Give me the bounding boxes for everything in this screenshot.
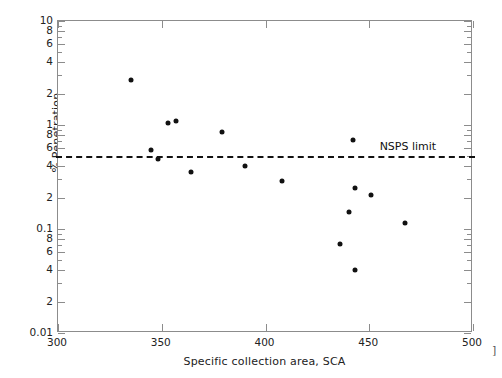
- y-tick-mark-right: [464, 270, 471, 271]
- x-tick-mark-top: [369, 21, 370, 28]
- y-tick-mark-right: [464, 44, 471, 45]
- nsps-limit-label: NSPS limit: [380, 140, 437, 153]
- y-tick-label: 4: [46, 263, 53, 275]
- y-tick-mark: [58, 148, 65, 149]
- data-point: [155, 157, 160, 162]
- data-point: [188, 170, 193, 175]
- x-tick-mark-bottom: [473, 324, 474, 331]
- y-tick-mark: [58, 125, 65, 126]
- data-point: [128, 78, 133, 83]
- y-tick-mark: [58, 234, 62, 235]
- x-tick-mark-bottom: [266, 324, 267, 331]
- y-tick-mark: [58, 21, 65, 22]
- x-tick-mark-top: [473, 21, 474, 28]
- y-tick-label: 6: [46, 141, 53, 153]
- data-point: [350, 137, 355, 142]
- data-point: [174, 118, 179, 123]
- y-tick-mark: [58, 198, 65, 199]
- y-tick-mark-right: [464, 62, 471, 63]
- y-tick-mark-right: [467, 245, 471, 246]
- y-tick-mark-right: [467, 141, 471, 142]
- y-tick-mark: [58, 333, 65, 334]
- x-tick-mark-bottom: [162, 324, 163, 331]
- chart-figure: % Penetration 108642186420.186420.01 NSP…: [0, 0, 502, 378]
- y-tick-label: 8: [46, 232, 53, 244]
- y-tick-mark: [58, 166, 65, 167]
- x-tick-mark-bottom: [369, 324, 370, 331]
- y-tick-mark-right: [467, 179, 471, 180]
- x-axis-label: Specific collection area, SCA: [57, 355, 472, 368]
- y-tick-mark-right: [464, 239, 471, 240]
- y-tick-mark: [58, 31, 65, 32]
- y-tick-mark-right: [467, 52, 471, 53]
- y-tick-mark-right: [464, 21, 471, 22]
- y-tick-label: 2: [46, 191, 53, 203]
- data-point: [402, 220, 407, 225]
- y-tick-mark: [58, 44, 65, 45]
- y-tick-mark: [58, 37, 62, 38]
- y-tick-mark-right: [464, 148, 471, 149]
- data-point: [280, 178, 285, 183]
- y-tick-label: 6: [46, 245, 53, 257]
- y-tick-mark: [58, 179, 62, 180]
- data-point: [369, 193, 374, 198]
- y-tick-label: 8: [46, 128, 53, 140]
- y-tick-mark-right: [467, 260, 471, 261]
- data-point: [219, 130, 224, 135]
- y-tick-mark-right: [464, 229, 471, 230]
- y-tick-label: 4: [46, 159, 53, 171]
- x-tick-mark-top: [58, 21, 59, 28]
- nsps-limit-line: [56, 156, 475, 158]
- data-point: [346, 210, 351, 215]
- y-tick-mark-right: [464, 94, 471, 95]
- data-point: [352, 268, 357, 273]
- y-tick-mark-right: [467, 234, 471, 235]
- y-tick-mark-right: [464, 166, 471, 167]
- data-point: [149, 147, 154, 152]
- y-tick-mark: [58, 229, 65, 230]
- x-tick-mark-top: [162, 21, 163, 28]
- x-tick-label: 300: [47, 336, 67, 348]
- y-axis-tick-labels: 108642186420.186420.01: [0, 0, 53, 378]
- y-tick-label: 4: [46, 55, 53, 67]
- y-tick-label: 2: [46, 295, 53, 307]
- page-corner-mark: ]: [492, 344, 496, 357]
- data-point: [165, 120, 170, 125]
- y-tick-mark-right: [467, 26, 471, 27]
- y-tick-mark: [58, 252, 65, 253]
- y-tick-mark: [58, 75, 62, 76]
- x-tick-label: 400: [254, 336, 274, 348]
- y-tick-mark-right: [464, 252, 471, 253]
- data-point: [338, 241, 343, 246]
- y-tick-mark-right: [464, 31, 471, 32]
- y-tick-label: 2: [46, 87, 53, 99]
- y-tick-mark: [58, 270, 65, 271]
- x-tick-label: 350: [151, 336, 171, 348]
- plot-area: NSPS limit: [57, 20, 472, 332]
- y-tick-mark: [58, 52, 62, 53]
- y-tick-mark: [58, 94, 65, 95]
- y-tick-mark-right: [467, 75, 471, 76]
- x-tick-label: 500: [462, 336, 482, 348]
- y-tick-mark: [58, 141, 62, 142]
- data-point: [242, 164, 247, 169]
- y-tick-mark: [58, 302, 65, 303]
- y-tick-mark: [58, 239, 65, 240]
- data-point: [352, 185, 357, 190]
- x-tick-mark-top: [266, 21, 267, 28]
- y-tick-mark: [58, 130, 62, 131]
- y-tick-label: 6: [46, 37, 53, 49]
- y-tick-mark-right: [464, 125, 471, 126]
- y-tick-mark-right: [464, 198, 471, 199]
- y-tick-mark-right: [467, 283, 471, 284]
- y-tick-mark-right: [464, 135, 471, 136]
- y-tick-label: 8: [46, 24, 53, 36]
- y-tick-mark-right: [467, 37, 471, 38]
- y-tick-mark: [58, 260, 62, 261]
- y-tick-mark-right: [464, 333, 471, 334]
- y-tick-mark: [58, 245, 62, 246]
- y-tick-mark: [58, 283, 62, 284]
- x-tick-label: 450: [358, 336, 378, 348]
- y-tick-mark: [58, 135, 65, 136]
- y-tick-mark: [58, 62, 65, 63]
